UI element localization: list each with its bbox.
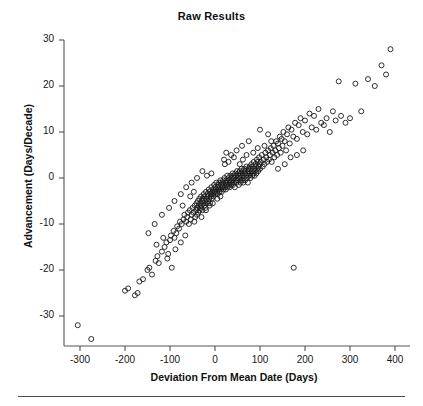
data-point: [255, 146, 260, 151]
data-point: [303, 118, 308, 123]
data-point: [89, 337, 94, 342]
data-point: [224, 150, 229, 155]
data-point: [278, 150, 283, 155]
data-point: [244, 153, 249, 158]
x-axis-ticks: [80, 346, 395, 351]
y-tick-label: 20: [20, 79, 54, 90]
data-point: [184, 185, 189, 190]
y-tick-label: 0: [20, 171, 54, 182]
data-point: [237, 162, 242, 167]
data-point: [339, 113, 344, 118]
data-point: [266, 132, 271, 137]
data-point: [251, 150, 256, 155]
data-point: [301, 148, 306, 153]
data-point: [291, 134, 296, 139]
data-point: [353, 81, 358, 86]
data-point: [384, 72, 389, 77]
data-point: [246, 139, 251, 144]
data-point: [240, 143, 245, 148]
scatter-plot-figure: Raw Results Advancement (Days/Decade) De…: [0, 0, 423, 406]
data-point: [336, 79, 341, 84]
data-point: [372, 84, 377, 89]
data-point: [312, 113, 317, 118]
y-tick-label: -20: [20, 263, 54, 274]
data-point: [150, 272, 155, 277]
data-point: [293, 120, 298, 125]
data-point: [169, 265, 174, 270]
y-tick-label: -30: [20, 309, 54, 320]
data-point: [152, 222, 157, 227]
axis-lines: [64, 40, 410, 346]
x-tick-label: -100: [150, 354, 190, 365]
data-point: [200, 169, 205, 174]
data-point: [173, 247, 178, 252]
data-point: [183, 233, 188, 238]
data-point: [180, 203, 185, 208]
data-point: [296, 123, 301, 128]
data-point: [258, 127, 263, 132]
data-point: [294, 153, 299, 158]
data-point: [333, 118, 338, 123]
data-point: [269, 139, 274, 144]
data-point: [282, 162, 287, 167]
data-point: [204, 173, 209, 178]
data-point: [285, 132, 290, 137]
plot-canvas: [0, 0, 423, 406]
data-point: [159, 212, 164, 217]
data-point: [192, 219, 197, 224]
x-tick-label: -300: [60, 354, 100, 365]
data-point: [155, 254, 160, 259]
data-point: [164, 240, 169, 245]
x-tick-label: 400: [375, 354, 415, 365]
data-point: [366, 77, 371, 82]
data-point: [154, 242, 159, 247]
data-point: [287, 141, 292, 146]
data-point: [330, 109, 335, 114]
y-tick-label: -10: [20, 217, 54, 228]
data-point: [288, 155, 293, 160]
data-point: [343, 120, 348, 125]
data-point: [189, 180, 194, 185]
x-axis-label: Deviation From Mean Date (Days): [64, 371, 404, 383]
data-point: [294, 136, 299, 141]
data-point: [348, 116, 353, 121]
data-point: [291, 265, 296, 270]
data-point: [327, 130, 332, 135]
data-point: [234, 148, 239, 153]
x-tick-label: 0: [195, 354, 235, 365]
data-point-group: [75, 47, 393, 342]
data-point: [195, 176, 200, 181]
x-tick-label: 100: [240, 354, 280, 365]
data-point: [188, 194, 193, 199]
data-point: [167, 205, 172, 210]
data-point: [168, 233, 173, 238]
data-point: [284, 148, 289, 153]
data-point: [172, 199, 177, 204]
data-point: [75, 323, 80, 328]
y-tick-label: 30: [20, 33, 54, 44]
y-tick-label: 10: [20, 125, 54, 136]
data-point: [146, 231, 151, 236]
x-tick-label: 200: [285, 354, 325, 365]
data-point: [359, 109, 364, 114]
data-point: [166, 251, 171, 256]
data-point: [240, 157, 245, 162]
data-point: [222, 162, 227, 167]
data-point: [262, 143, 267, 148]
data-point: [324, 116, 329, 121]
data-point: [141, 277, 146, 282]
data-point: [159, 249, 164, 254]
x-tick-label: 300: [330, 354, 370, 365]
data-point: [281, 130, 286, 135]
data-point: [178, 192, 183, 197]
data-point: [305, 132, 310, 137]
footer-divider: [18, 396, 405, 397]
data-point: [161, 235, 166, 240]
data-point: [178, 240, 183, 245]
data-point: [137, 279, 142, 284]
data-point: [379, 63, 384, 68]
data-point: [226, 159, 231, 164]
y-axis-ticks: [59, 40, 64, 316]
x-tick-label: -200: [105, 354, 145, 365]
data-point: [199, 215, 204, 220]
